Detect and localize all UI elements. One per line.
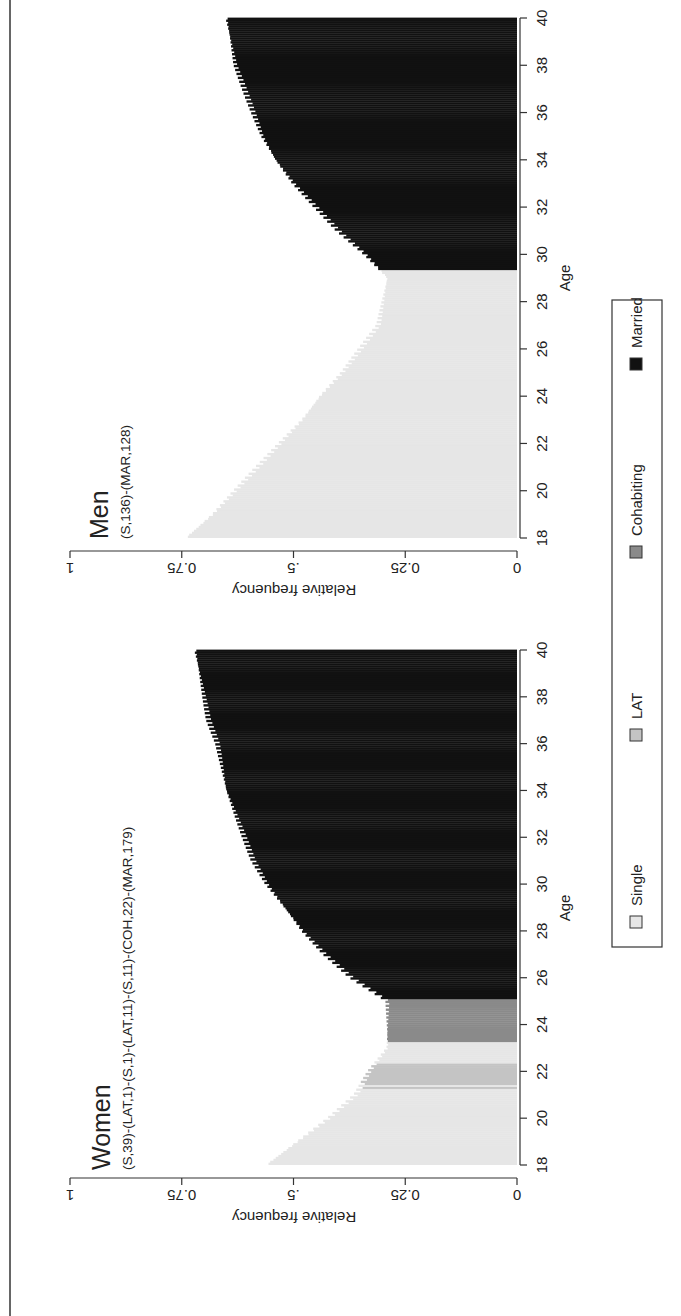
figure-canvas: 00.25.50.751 Relative frequency 18202224… [0,0,681,1316]
legend-label-lat: LAT [628,693,645,719]
legend-swatch-married [630,358,642,370]
men-title: Men [85,490,113,539]
legend-swatch-cohabiting [630,546,642,558]
x-tick-label: 20 [533,1110,550,1127]
x-tick-label: 28 [533,293,550,310]
y-tick-label: 1 [66,560,74,577]
legend-label-married: Married [628,297,645,348]
women-x-axis-label: Age [556,895,573,922]
women-panel: 00.25.50.751 Relative frequency 18202224… [66,642,573,1226]
legend-swatch-lat [630,729,642,741]
women-subtitle: (S,39)-(LAT,1)-(S,1)-(LAT,11)-(S,11)-(CO… [120,827,135,1170]
women-y-axis-label: Relative frequency [231,1209,356,1226]
men-subtitle: (S,136)-(MAR,128) [118,425,133,539]
x-tick-label: 36 [533,735,550,752]
x-tick-label: 22 [533,1063,550,1080]
area-strip-married [228,18,517,20]
y-tick-label: 0.75 [167,1187,196,1204]
women-x-ticks: 182022242628303234363840 [520,642,550,1174]
area-strip-married [196,650,517,652]
women-sequence-areas [195,650,517,1165]
men-y-ticks: 00.25.50.751 [66,551,521,577]
x-tick-label: 34 [533,151,550,168]
y-tick-label: 0 [513,560,521,577]
x-tick-label: 32 [533,199,550,216]
men-x-ticks: 182022242628303234363840 [520,10,550,547]
x-tick-label: 28 [533,923,550,940]
x-tick-label: 40 [533,10,550,27]
y-tick-label: 1 [66,1187,74,1204]
x-tick-label: 34 [533,782,550,799]
x-tick-label: 32 [533,829,550,846]
x-tick-label: 24 [533,1016,550,1033]
y-tick-label: 0.25 [391,1187,420,1204]
women-y-ticks: 00.25.50.751 [66,1178,521,1204]
x-tick-label: 30 [533,876,550,893]
x-tick-label: 26 [533,341,550,358]
x-tick-label: 26 [533,969,550,986]
legend-box [612,300,662,947]
x-tick-label: 36 [533,104,550,121]
men-panel: 00.25.50.751 Relative frequency 18202224… [66,10,573,599]
x-tick-label: 22 [533,435,550,452]
y-tick-label: .5 [287,560,300,577]
x-tick-label: 40 [533,642,550,659]
x-tick-label: 30 [533,246,550,263]
legend-label-cohabiting: Cohabiting [628,464,645,536]
y-tick-label: 0.75 [167,560,196,577]
women-title: Women [87,1084,115,1170]
x-tick-label: 38 [533,57,550,74]
men-y-axis-label: Relative frequency [231,582,356,599]
figure: 00.25.50.751 Relative frequency 18202224… [0,0,681,1316]
x-tick-label: 18 [533,1157,550,1174]
x-tick-label: 24 [533,388,550,405]
x-tick-label: 38 [533,688,550,705]
y-tick-label: .5 [287,1187,300,1204]
y-tick-label: 0 [513,1187,521,1204]
legend-swatch-single [630,916,642,928]
men-x-axis-label: Age [556,265,573,292]
men-sequence-areas [188,18,517,538]
x-tick-label: 18 [533,530,550,547]
legend: SingleLATCohabitingMarried [612,297,662,947]
legend-label-single: Single [628,864,645,906]
y-tick-label: 0.25 [391,560,420,577]
x-tick-label: 20 [533,482,550,499]
